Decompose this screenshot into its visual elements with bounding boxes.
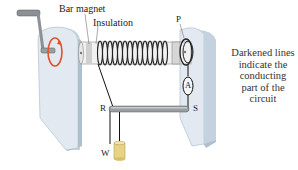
caption-line: indicate the: [228, 59, 298, 71]
caption-line: Darkened lines: [228, 47, 298, 59]
insulation-leader: [96, 26, 98, 44]
label-w: W: [101, 148, 110, 159]
label-insulation: Insulation: [93, 17, 133, 28]
left-stand: [38, 27, 82, 151]
rod-rs: [109, 106, 189, 112]
caption: Darkened lines indicate the conducting p…: [228, 47, 298, 105]
label-r: R: [100, 103, 106, 114]
caption-line: part of the: [228, 82, 298, 94]
weight: [114, 112, 125, 161]
label-a: A: [185, 80, 191, 91]
label-s: S: [193, 103, 198, 114]
caption-line: circuit: [228, 93, 298, 105]
apparatus-diagram: Bar magnet Insulation P A R S W Darkened…: [0, 0, 298, 170]
label-bar-magnet: Bar magnet: [59, 3, 105, 14]
bar-magnet-leader: [85, 14, 89, 44]
label-p: P: [176, 14, 181, 25]
caption-line: conducting: [228, 70, 298, 82]
circuit-wires: [98, 64, 188, 144]
